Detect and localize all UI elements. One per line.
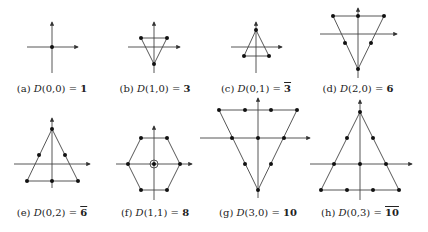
caption-tag: (e) [17,207,31,218]
caption-c: (c) D(0,1) = 3 [221,83,291,94]
caption-dimension: 6 [386,83,393,94]
caption-equals: = [172,83,180,94]
weight-diagrams [0,0,428,232]
caption-function: D [34,83,42,94]
panel-h-diagram [310,100,412,200]
caption-f: (f) D(1,1) = 8 [121,207,189,218]
caption-args: (0,2) [42,207,66,218]
caption-dimension: 1 [80,83,87,94]
caption-equals: = [171,207,179,218]
caption-equals: = [375,83,383,94]
caption-function: D [34,207,42,218]
caption-equals: = [69,207,77,218]
caption-tag: (c) [221,83,234,94]
caption-e: (e) D(0,2) = 6 [17,207,87,218]
caption-function: D [136,207,144,218]
caption-tag: (a) [17,83,31,94]
caption-args: (0,3) [347,207,371,218]
caption-args: (1,1) [144,207,168,218]
caption-args: (0,0) [42,83,66,94]
caption-equals: = [272,83,280,94]
caption-tag: (g) [219,207,233,218]
caption-equals: = [69,83,77,94]
caption-args: (2,0) [348,83,372,94]
panel-g-diagram [200,98,310,198]
caption-args: (3,0) [245,207,269,218]
caption-dimension: 10 [283,207,297,218]
caption-tag: (f) [121,207,133,218]
caption-dimension-conjugate: 3 [284,83,291,94]
caption-a: (a) D(0,0) = 1 [17,83,87,94]
caption-tag: (h) [321,207,335,218]
caption-args: (1,0) [145,83,169,94]
caption-args: (0,1) [246,83,270,94]
caption-tag: (b) [120,83,134,94]
caption-b: (b) D(1,0) = 3 [120,83,191,94]
caption-dimension-conjugate: 6 [80,207,87,218]
caption-dimension-conjugate: 10 [385,207,399,218]
caption-equals: = [271,207,279,218]
caption-dimension: 3 [183,83,190,94]
caption-d: (d) D(2,0) = 6 [323,83,394,94]
caption-h: (h) D(0,3) = 10 [321,207,399,218]
caption-function: D [238,83,246,94]
caption-equals: = [373,207,381,218]
caption-g: (g) D(3,0) = 10 [219,207,297,218]
caption-dimension: 8 [182,207,189,218]
caption-tag: (d) [323,83,337,94]
